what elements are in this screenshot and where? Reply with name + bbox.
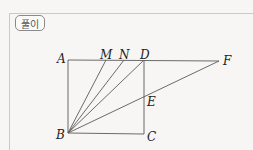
- point-label-M: M: [100, 49, 112, 61]
- geometry-diagram: [0, 0, 253, 150]
- point-label-F: F: [223, 55, 231, 67]
- point-label-B: B: [56, 129, 65, 141]
- segment-BN: [68, 60, 124, 133]
- point-label-A: A: [57, 53, 66, 65]
- segment-BC: [68, 133, 144, 134]
- segment-BD: [68, 60, 144, 133]
- point-label-N: N: [119, 49, 130, 61]
- point-label-E: E: [147, 96, 156, 108]
- point-label-C: C: [147, 131, 156, 143]
- point-label-D: D: [140, 49, 150, 61]
- segment-BF: [68, 61, 219, 133]
- segment-BM: [68, 60, 106, 133]
